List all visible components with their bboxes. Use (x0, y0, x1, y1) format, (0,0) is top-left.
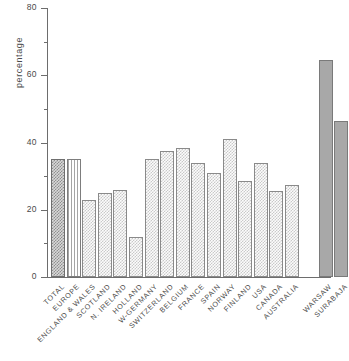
y-tick-60: 60 (41, 75, 47, 76)
y-tick-20: 20 (41, 210, 47, 211)
bar-australia (285, 185, 299, 277)
bar-spain (207, 173, 221, 277)
bar-surabaja (334, 121, 348, 277)
y-minor-tick (44, 176, 47, 177)
bar-france (191, 163, 205, 277)
y-tick-label: 80 (27, 2, 37, 12)
y-axis-line (47, 8, 48, 278)
bar-belgium (176, 148, 190, 277)
y-tick-label: 40 (27, 137, 37, 147)
y-minor-tick (44, 109, 47, 110)
x-axis-line (47, 277, 331, 278)
bar-holland (129, 237, 143, 277)
y-tick-40: 40 (41, 143, 47, 144)
y-tick-label: 60 (27, 69, 37, 79)
y-tick-80: 80 (41, 8, 47, 9)
bar-norway (223, 139, 237, 277)
x-axis-labels: TOTALEUROPEENGLAND & WALESSCOTLANDN. IRE… (47, 282, 331, 360)
bar-usa (254, 163, 268, 277)
bar-europe (67, 159, 81, 277)
bar-w-germany (145, 159, 159, 277)
y-minor-tick (44, 42, 47, 43)
y-tick-label: 0 (32, 271, 37, 281)
bar-total (51, 159, 65, 277)
bar-england-wales (82, 200, 96, 277)
plot-area: 020406080 (47, 8, 331, 278)
bar-finland (238, 181, 252, 277)
bar-switzerland (160, 151, 174, 277)
bar-scotland (98, 193, 112, 277)
y-tick-label: 20 (27, 204, 37, 214)
bar-canada (269, 191, 283, 277)
bar-n-ireland (113, 190, 127, 277)
y-axis-title: percentage (14, 0, 24, 88)
y-minor-tick (44, 243, 47, 244)
bar-warsaw (319, 60, 333, 277)
y-tick-0: 0 (41, 277, 47, 278)
